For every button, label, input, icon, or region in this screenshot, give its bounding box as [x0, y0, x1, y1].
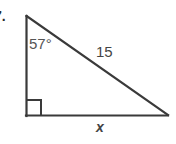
base-label: x [96, 120, 104, 134]
hypotenuse-label: 15 [96, 44, 113, 59]
right-angle-marker-icon [27, 100, 41, 115]
item-number: 7. [0, 9, 6, 23]
hypotenuse-line [27, 16, 169, 115]
angle-label: 57° [29, 36, 52, 51]
geometry-figure: 7. 57° 15 x [0, 0, 176, 144]
triangle-svg [0, 0, 176, 144]
triangle-outline [26, 16, 168, 116]
